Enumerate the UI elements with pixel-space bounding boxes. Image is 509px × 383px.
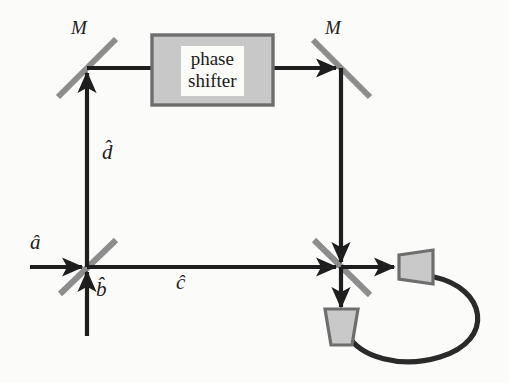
mach-zehnder-figure: M M â b̂ ĉ d̂ phase shifter — [0, 0, 509, 383]
beam-paths-layer — [30, 68, 394, 336]
detector-right[interactable] — [399, 250, 433, 284]
mode-a-label: â — [30, 232, 41, 253]
mode-c-label: ĉ — [176, 272, 185, 293]
mirror-right-label: M — [325, 18, 341, 37]
mirror-left-label: M — [71, 18, 87, 37]
figure-canvas — [0, 0, 509, 383]
phase-shifter-label: phase shifter — [181, 46, 244, 96]
phase-shifter-line-1: phase — [191, 48, 234, 69]
phase-shifter-line-2: shifter — [188, 70, 237, 91]
mode-d-label: d̂ — [102, 142, 113, 163]
mode-b-label: b̂ — [96, 279, 107, 300]
detector-bottom[interactable] — [325, 309, 358, 345]
